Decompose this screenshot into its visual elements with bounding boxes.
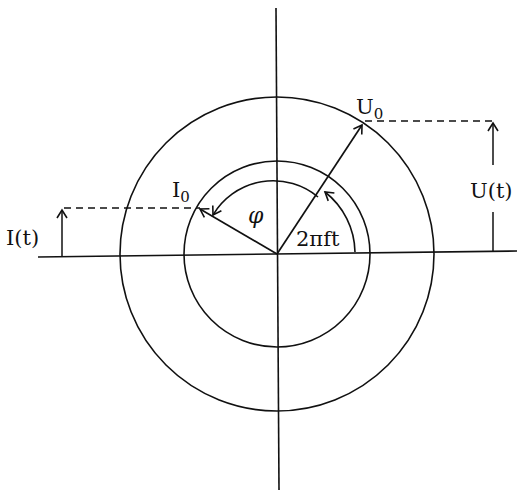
label-i-t: I(t) bbox=[6, 226, 39, 250]
current-phasor bbox=[200, 209, 277, 254]
label-u-t: U(t) bbox=[470, 179, 513, 203]
phase-shift-arc bbox=[213, 181, 318, 215]
label-phi: φ bbox=[248, 203, 264, 228]
label-2pift: 2πft bbox=[296, 227, 340, 251]
phasor-diagram: U0 I0 U(t) I(t) φ 2πft bbox=[0, 0, 525, 495]
label-u0: U0 bbox=[356, 95, 383, 123]
label-i0: I0 bbox=[172, 178, 190, 206]
vertical-axis bbox=[276, 8, 279, 490]
